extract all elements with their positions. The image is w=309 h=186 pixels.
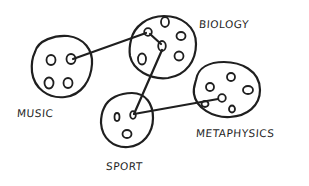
music-dot-3	[45, 78, 54, 89]
concept-map-drawing	[0, 0, 309, 186]
cluster-music	[32, 36, 92, 97]
biology-dot-6	[175, 52, 184, 61]
sport-dot-3	[123, 130, 132, 138]
biology-dot-1	[161, 17, 169, 27]
sport-circle	[101, 93, 153, 147]
metaphysics-dot-1	[227, 73, 235, 81]
sport-dot-1	[115, 113, 120, 121]
link-biology-internal	[150, 34, 161, 44]
metaphysics-dot-2	[206, 83, 214, 91]
music-dot-4	[64, 78, 73, 88]
biology-dot-5	[138, 54, 146, 65]
link-music-biology	[73, 33, 146, 59]
music-dot-1	[47, 55, 56, 65]
music-circle	[32, 36, 92, 97]
label-music: MUSIC	[17, 107, 54, 119]
cluster-sport	[101, 93, 153, 147]
label-biology: BIOLOGY	[199, 18, 250, 30]
metaphysics-dot-6	[229, 106, 235, 113]
label-sport: SPORT	[106, 160, 144, 172]
concept-map-canvas: MUSIC BIOLOGY SPORT METAPHYSICS	[0, 0, 309, 186]
label-metaphysics: METAPHYSICS	[196, 127, 275, 139]
cluster-metaphysics	[194, 62, 260, 117]
cluster-biology	[130, 16, 196, 78]
metaphysics-dot-4	[218, 94, 226, 102]
biology-dot-3	[177, 32, 186, 40]
metaphysics-dot-3	[243, 86, 253, 94]
